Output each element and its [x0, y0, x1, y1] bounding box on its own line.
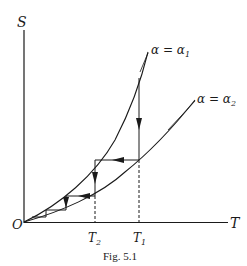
arrow-left-icon — [112, 157, 124, 163]
y-axis-label: S — [17, 14, 27, 30]
t2-label: T2 — [88, 231, 101, 247]
entropy-temperature-diagram: S T O T2 T1 α = α1 α = α2 Fig. 5.1 — [0, 0, 247, 266]
arrow-down-icon — [92, 172, 98, 184]
alpha1-label: α = α1 — [151, 43, 190, 59]
x-axis-label: T — [230, 215, 241, 231]
arrow-left-icon — [78, 193, 90, 199]
curve-alpha2 — [24, 100, 195, 222]
origin-label: O — [12, 217, 23, 232]
alpha2-label: α = α2 — [197, 92, 236, 108]
figure-caption: Fig. 5.1 — [103, 250, 137, 262]
arrow-down-icon — [136, 118, 142, 130]
t1-label: T1 — [133, 231, 146, 247]
alpha2-leader — [168, 101, 195, 130]
